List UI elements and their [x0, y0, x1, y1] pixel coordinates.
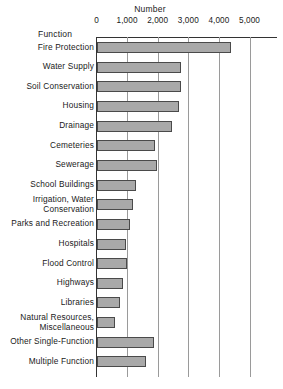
gridline-4000 — [219, 37, 220, 377]
bar-4 — [97, 121, 173, 132]
bar-10 — [97, 239, 126, 250]
category-label-3: Housing — [63, 101, 95, 111]
category-label-line2: Miscellaneous — [8, 323, 94, 333]
category-label-line2: Conservation — [8, 205, 94, 215]
category-label-2: Soil Conservation — [26, 82, 94, 92]
category-label-10: Hospitals — [59, 239, 94, 249]
bar-1 — [97, 62, 181, 73]
x-tick-0: 0 — [94, 16, 99, 25]
bar-16 — [97, 356, 147, 367]
bar-5 — [97, 140, 155, 151]
x-tick-3000: 3,000 — [178, 16, 199, 25]
category-label-16: Multiple Function — [29, 357, 94, 367]
bar-3 — [97, 101, 180, 112]
category-label-9: Parks and Recreation — [11, 219, 94, 229]
category-label-13: Libraries — [61, 298, 94, 308]
category-label-7: School Buildings — [30, 180, 94, 190]
bar-7 — [97, 180, 137, 191]
bar-8 — [97, 199, 133, 210]
x-tick-4000: 4,000 — [208, 16, 229, 25]
function-column-header: Function — [38, 29, 72, 39]
category-label-1: Water Supply — [43, 62, 94, 72]
x-tick-2000: 2,000 — [147, 16, 168, 25]
category-label-15: Other Single-Function — [10, 337, 94, 347]
bar-6 — [97, 160, 158, 171]
bar-13 — [97, 297, 121, 308]
bar-9 — [97, 219, 131, 230]
x-tick-1000: 1,000 — [117, 16, 138, 25]
category-label-12: Highways — [57, 278, 94, 288]
category-label-5: Cemeteries — [50, 141, 94, 151]
bar-14 — [97, 317, 116, 328]
bar-15 — [97, 337, 154, 348]
bar-chart: Number Function 01,0002,0003,0004,0005,0… — [0, 0, 283, 389]
category-label-8: Irrigation, WaterConservation — [8, 195, 94, 214]
gridline-3000 — [188, 37, 189, 377]
gridline-5000 — [250, 37, 251, 377]
category-label-0: Fire Protection — [38, 43, 94, 53]
bar-0 — [97, 42, 232, 53]
bar-12 — [97, 278, 123, 289]
category-label-6: Sewerage — [55, 160, 94, 170]
bar-11 — [97, 258, 128, 269]
chart-axis-title: Number — [134, 4, 165, 14]
x-tick-5000: 5,000 — [239, 16, 260, 25]
category-label-14: Natural Resources,Miscellaneous — [8, 313, 94, 332]
category-label-11: Flood Control — [42, 259, 94, 269]
category-label-4: Drainage — [59, 121, 94, 131]
bar-2 — [97, 81, 181, 92]
